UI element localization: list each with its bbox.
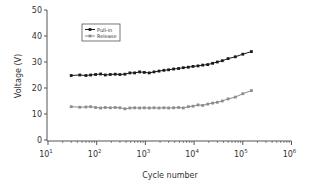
y-tick-label: 20 <box>32 84 42 93</box>
data-point-marker <box>241 53 244 56</box>
data-point-marker <box>197 104 200 107</box>
data-point-marker <box>94 106 97 109</box>
data-point-marker <box>78 106 81 109</box>
data-point-marker <box>192 65 195 68</box>
data-point-marker <box>133 72 136 75</box>
plot-series <box>70 50 253 110</box>
y-tick-label: 30 <box>32 58 42 67</box>
data-point-marker <box>187 105 190 108</box>
x-tick-label: 103 <box>137 148 151 159</box>
data-point-marker <box>221 59 224 62</box>
data-point-marker <box>85 106 88 109</box>
series-pull-in <box>70 50 253 77</box>
data-point-marker <box>163 69 166 72</box>
data-point-marker <box>250 50 253 53</box>
data-point-marker <box>216 101 219 104</box>
series-release <box>70 89 253 110</box>
data-point-marker <box>138 71 141 74</box>
data-point-marker <box>241 92 244 95</box>
axes: 01020304050101102103104105106 <box>32 6 297 159</box>
data-point-marker <box>197 65 200 68</box>
data-point-marker <box>129 107 132 110</box>
voltage-vs-cycles-chart: 01020304050101102103104105106 Pull-inRel… <box>0 0 315 189</box>
data-point-marker <box>129 72 132 75</box>
data-point-marker <box>227 98 230 101</box>
data-point-marker <box>70 105 73 108</box>
series-line <box>71 91 251 109</box>
data-point-marker <box>133 106 136 109</box>
legend-label: Pull-in <box>97 27 112 33</box>
data-point-marker <box>172 106 175 109</box>
x-tick-label: 106 <box>283 148 297 159</box>
data-point-marker <box>104 74 107 77</box>
data-point-marker <box>153 71 156 74</box>
data-point-marker <box>177 106 180 109</box>
data-point-marker <box>109 73 112 76</box>
legend-marker-swatch <box>89 28 92 31</box>
data-point-marker <box>172 68 175 71</box>
data-point-marker <box>99 73 102 76</box>
chart-container: 01020304050101102103104105106 Pull-inRel… <box>0 0 315 189</box>
series-line <box>71 52 251 76</box>
data-point-marker <box>206 63 209 66</box>
data-point-marker <box>234 96 237 99</box>
x-tick-label: 101 <box>39 148 53 159</box>
y-tick-label: 50 <box>32 6 42 15</box>
data-point-marker <box>114 106 117 109</box>
legend-marker-swatch <box>89 35 92 38</box>
data-point-marker <box>167 68 170 71</box>
x-tick-label: 105 <box>234 148 248 159</box>
data-point-marker <box>167 107 170 110</box>
data-point-marker <box>211 102 214 105</box>
legend-label: Release <box>97 33 117 39</box>
data-point-marker <box>153 106 156 109</box>
data-point-marker <box>78 74 81 77</box>
y-tick-label: 40 <box>32 32 42 41</box>
data-point-marker <box>124 107 127 110</box>
x-tick-label: 102 <box>88 148 102 159</box>
data-point-marker <box>201 104 204 107</box>
data-point-marker <box>114 73 117 76</box>
data-point-marker <box>109 106 112 109</box>
data-point-marker <box>148 107 151 110</box>
data-point-marker <box>227 57 230 60</box>
y-tick-label: 0 <box>37 136 42 145</box>
data-point-marker <box>94 73 97 76</box>
data-point-marker <box>158 70 161 73</box>
data-point-marker <box>187 66 190 69</box>
data-point-marker <box>124 73 127 76</box>
data-point-marker <box>104 106 107 109</box>
data-point-marker <box>182 66 185 69</box>
y-axis-label: Voltage (V) <box>14 54 23 98</box>
data-point-marker <box>250 89 253 92</box>
data-point-marker <box>201 64 204 67</box>
data-point-marker <box>119 73 122 76</box>
data-point-marker <box>89 105 92 108</box>
data-point-marker <box>138 107 141 110</box>
data-point-marker <box>143 71 146 74</box>
data-point-marker <box>70 74 73 77</box>
data-point-marker <box>143 106 146 109</box>
legend: Pull-inRelease <box>82 24 120 41</box>
data-point-marker <box>163 106 166 109</box>
data-point-marker <box>89 74 92 77</box>
y-tick-label: 10 <box>32 110 42 119</box>
data-point-marker <box>216 61 219 64</box>
data-point-marker <box>234 55 237 58</box>
data-point-marker <box>192 105 195 108</box>
data-point-marker <box>206 103 209 106</box>
data-point-marker <box>182 107 185 110</box>
data-point-marker <box>119 106 122 109</box>
data-point-marker <box>99 107 102 110</box>
data-point-marker <box>211 62 214 65</box>
data-point-marker <box>148 72 151 75</box>
data-point-marker <box>221 100 224 103</box>
x-tick-label: 104 <box>185 148 199 159</box>
x-axis-label: Cycle number <box>142 171 198 180</box>
data-point-marker <box>85 74 88 77</box>
data-point-marker <box>158 107 161 110</box>
data-point-marker <box>177 67 180 70</box>
